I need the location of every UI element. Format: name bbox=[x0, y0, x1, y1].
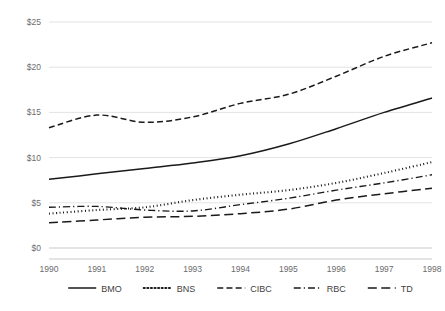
line-chart: $0$5$10$15$20$25 19901991199219931994199… bbox=[0, 0, 445, 311]
legend-label: TD bbox=[401, 284, 413, 294]
legend-label: RBC bbox=[327, 284, 347, 294]
x-tick-label: 1990 bbox=[40, 264, 59, 274]
y-tick-label: $0 bbox=[32, 243, 42, 253]
x-tick-label: 1995 bbox=[279, 264, 298, 274]
x-tick-label: 1991 bbox=[87, 264, 106, 274]
chart-canvas: $0$5$10$15$20$25 19901991199219931994199… bbox=[0, 0, 445, 311]
y-tick-label: $20 bbox=[27, 62, 41, 72]
x-axis-tick-labels: 199019911992199319941995199619971998 bbox=[40, 264, 442, 274]
y-tick-label: $10 bbox=[27, 153, 41, 163]
y-tick-label: $5 bbox=[32, 198, 42, 208]
y-tick-label: $15 bbox=[27, 107, 41, 117]
legend-label: BMO bbox=[101, 284, 122, 294]
x-tick-label: 1992 bbox=[135, 264, 154, 274]
x-tick-label: 1997 bbox=[375, 264, 394, 274]
x-tick-label: 1993 bbox=[183, 264, 202, 274]
legend-label: BNS bbox=[177, 284, 196, 294]
x-tick-label: 1994 bbox=[231, 264, 250, 274]
y-tick-label: $25 bbox=[27, 17, 41, 27]
x-tick-label: 1998 bbox=[423, 264, 442, 274]
x-tick-label: 1996 bbox=[327, 264, 346, 274]
legend-label: CIBC bbox=[250, 284, 272, 294]
